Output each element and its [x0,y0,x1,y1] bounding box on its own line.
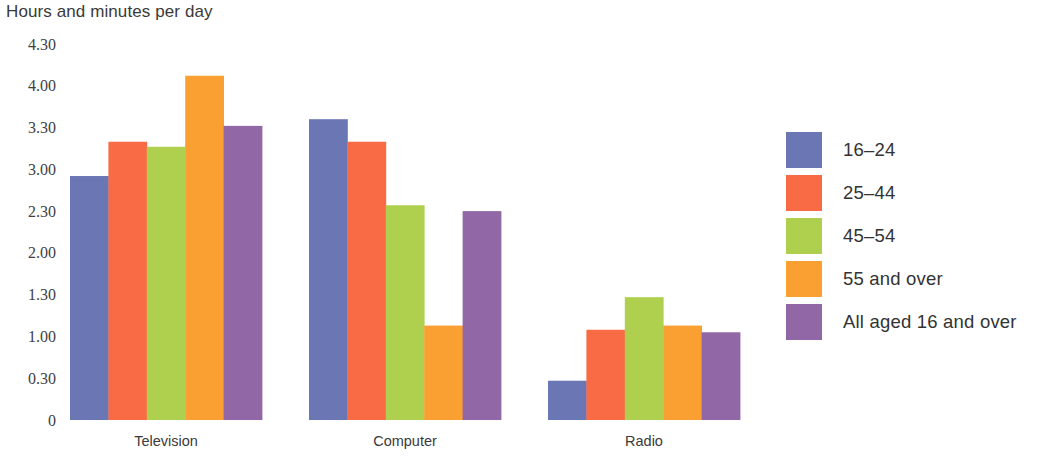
y-axis-tick-label: 1.00 [28,328,56,345]
legend-color-swatch [786,218,822,254]
bar [548,381,587,420]
bar [424,326,463,420]
legend-item[interactable]: 45–54 [786,214,1046,257]
y-axis: 4.304.003.303.002.302.001.301.000.300 [28,36,56,429]
chart-legend: 16–2425–4445–5455 and overAll aged 16 an… [786,128,1046,343]
y-axis-tick-label: 2.30 [28,203,56,220]
x-axis-category-label: Radio [625,433,663,449]
legend-item-label: 45–54 [843,225,895,247]
y-axis-tick-label: 0 [48,412,56,429]
legend-color-swatch [786,132,822,168]
legend-item[interactable]: All aged 16 and over [786,300,1046,343]
x-axis-category-label: Computer [373,433,437,449]
y-axis-tick-label: 0.30 [28,370,56,387]
bar [386,205,425,420]
y-axis-tick-label: 4.00 [28,77,56,94]
bar [70,176,109,420]
bar [185,76,224,420]
y-axis-tick-label: 3.00 [28,161,56,178]
bar [147,147,186,420]
legend-item-label: All aged 16 and over [843,311,1017,333]
bar [586,330,625,420]
bar [309,119,348,420]
y-axis-tick-label: 2.00 [28,244,56,261]
legend-item[interactable]: 16–24 [786,128,1046,171]
bars-group [70,76,740,420]
bar [347,142,386,420]
legend-color-swatch [786,175,822,211]
y-axis-tick-label: 1.30 [28,286,56,303]
legend-item-label: 55 and over [843,268,943,290]
x-axis: TelevisionComputerRadio [134,433,663,449]
legend-item[interactable]: 55 and over [786,257,1046,300]
bar [108,142,147,420]
y-axis-tick-label: 3.30 [28,119,56,136]
legend-item-label: 16–24 [843,139,895,161]
bar-chart-figure: Hours and minutes per day 4.304.003.303.… [0,0,1049,456]
y-axis-tick-label: 4.30 [28,36,56,53]
x-axis-category-label: Television [134,433,198,449]
bar [224,126,263,420]
legend-color-swatch [786,261,822,297]
bar [463,211,502,420]
bar [663,326,702,420]
legend-color-swatch [786,304,822,340]
legend-item[interactable]: 25–44 [786,171,1046,214]
bar [702,332,741,420]
legend-item-label: 25–44 [843,182,895,204]
bar [625,297,664,420]
